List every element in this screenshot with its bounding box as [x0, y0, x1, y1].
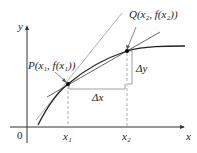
- y-axis-arrow-icon: [25, 25, 29, 30]
- x1-tick-label: x₁: [63, 131, 72, 142]
- x-axis-arrow-icon: [180, 125, 185, 129]
- point-q-label: Q(x₂, f(x₂)): [129, 9, 178, 20]
- point-p-label: P(x₁, f(x₁)): [28, 60, 75, 71]
- secant-diagram: y x 0 P(x₁, f(x₁)) Q(x₂, f(x₂)) x₁ x₂ Δx…: [0, 0, 197, 153]
- delta-y-bracket: [128, 51, 132, 84]
- x-axis-label: x: [186, 131, 191, 142]
- q-pointer: [128, 27, 136, 47]
- function-curve: [38, 46, 185, 125]
- delta-x-label: Δx: [92, 92, 103, 103]
- delta-y-label: Δy: [136, 63, 147, 74]
- y-axis-label: y: [18, 21, 23, 32]
- x2-tick-label: x₂: [122, 131, 131, 142]
- diagram-graphics: [0, 0, 197, 153]
- delta-x-bracket: [69, 84, 125, 89]
- origin-label: 0: [17, 130, 23, 141]
- point-p: [66, 82, 70, 86]
- point-q: [125, 49, 129, 53]
